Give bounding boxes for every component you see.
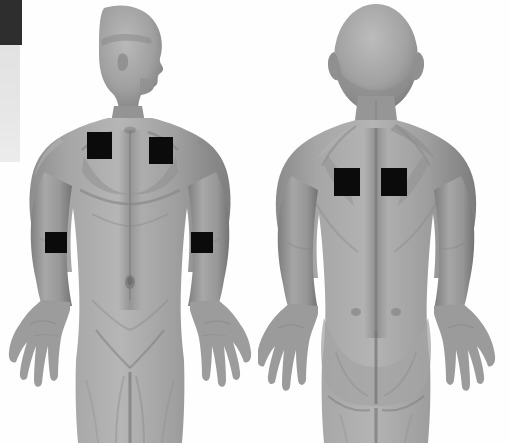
posterior-body-figure (258, 0, 510, 443)
anterior-head (99, 5, 163, 112)
anterior-left-hand (190, 300, 251, 387)
anterior-right-hand (9, 300, 70, 387)
body-marker-diagram (0, 0, 510, 443)
electrode-marker[interactable] (45, 232, 67, 253)
posterior-right-arm (434, 176, 474, 310)
electrode-marker[interactable] (381, 168, 407, 196)
posterior-left-arm (278, 176, 318, 310)
electrode-marker[interactable] (87, 132, 112, 159)
electrode-marker[interactable] (191, 232, 213, 253)
electrode-marker[interactable] (334, 168, 360, 196)
anterior-body-illustration (0, 0, 258, 443)
posterior-left-hand (258, 304, 318, 391)
posterior-body-illustration (258, 0, 510, 443)
posterior-right-hand (434, 304, 495, 391)
electrode-marker[interactable] (149, 137, 173, 164)
anterior-body-figure (0, 0, 258, 443)
